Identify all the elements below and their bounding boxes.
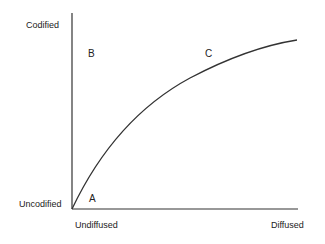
x-axis-left-label: Undiffused: [75, 220, 118, 230]
point-a-label: A: [89, 194, 96, 204]
diffusion-curve: [72, 40, 297, 209]
y-axis-top-label: Codified: [26, 20, 59, 30]
x-axis-right-label: Diffused: [271, 220, 304, 230]
point-b-label: B: [88, 49, 95, 59]
y-axis-bottom-label: Uncodified: [19, 199, 62, 209]
point-c-label: C: [205, 49, 212, 59]
